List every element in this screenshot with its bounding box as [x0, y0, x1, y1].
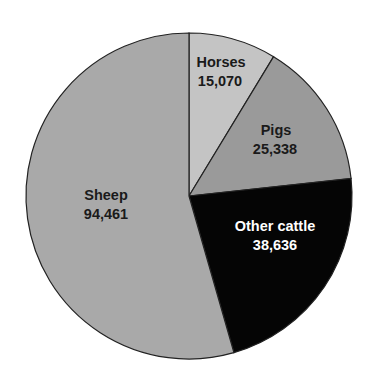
- pigs-label: Pigs: [261, 122, 292, 138]
- horses-value: 15,070: [198, 73, 242, 89]
- pigs-value: 25,338: [253, 141, 297, 157]
- horses-label: Horses: [196, 54, 245, 70]
- other-cattle-value: 38,636: [253, 237, 297, 253]
- sheep-label: Sheep: [84, 187, 128, 203]
- sheep-value: 94,461: [84, 206, 128, 222]
- pie-chart: Horses 15,070 Pigs 25,338 Other cattle 3…: [0, 0, 373, 385]
- other-cattle-label: Other cattle: [235, 218, 316, 234]
- pie-slices: [26, 33, 352, 359]
